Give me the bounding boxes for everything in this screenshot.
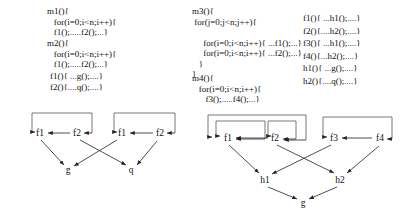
left-edge-f2b-q xyxy=(137,141,157,165)
left-edge-f1a-g xyxy=(41,140,64,165)
graph-node-right-g[interactable]: g xyxy=(301,198,306,208)
graph-node-right-f2[interactable]: f2 xyxy=(271,133,279,143)
right-edge-f4-h2 xyxy=(347,146,379,173)
left-edge-f1b-g xyxy=(74,140,117,166)
graph-node-left-f1a[interactable]: f1 xyxy=(36,128,44,138)
right-edge-h2-g xyxy=(309,187,337,199)
graph-node-left-f2a[interactable]: f2 xyxy=(73,128,81,138)
graph-node-right-h1[interactable]: h1 xyxy=(260,175,270,185)
right-edge-f2-h2 xyxy=(277,145,334,173)
right-edge-h1-g xyxy=(268,187,297,199)
graph-node-left-g[interactable]: g xyxy=(66,165,71,175)
graph-node-right-f4[interactable]: f4 xyxy=(376,133,384,143)
graph-node-left-q[interactable]: q xyxy=(129,165,134,175)
graph-node-right-f1[interactable]: f1 xyxy=(224,133,232,143)
graph-layer xyxy=(0,0,408,215)
figure-canvas: m1(){ for(i=0;i<n;i++){ f1();.....f2();.… xyxy=(0,0,408,215)
right-outer-loop-box xyxy=(208,115,306,140)
graph-node-right-f3[interactable]: f3 xyxy=(330,133,338,143)
left-edge-f2a-q xyxy=(80,140,126,165)
graph-node-left-f1b[interactable]: f1 xyxy=(118,128,126,138)
graph-node-left-f2b[interactable]: f2 xyxy=(156,128,164,138)
right-edge-f1-h1 xyxy=(229,145,259,173)
graph-node-right-h2[interactable]: h2 xyxy=(335,175,345,185)
right-edge-f3-h1 xyxy=(272,145,331,174)
